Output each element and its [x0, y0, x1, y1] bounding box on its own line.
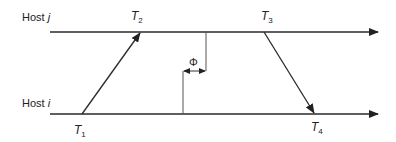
timestamp-t1: T1	[74, 123, 86, 139]
message-arrow-t3-t4	[264, 32, 314, 113]
message-arrow-t1-t2	[82, 33, 140, 114]
host-i-label: Host i	[22, 97, 51, 109]
timestamp-t4: T4	[311, 120, 323, 136]
offset-phi-label: Φ	[189, 56, 198, 68]
timestamp-t3: T3	[261, 9, 273, 25]
host-j-label: Host j	[22, 11, 51, 23]
timestamp-t2: T2	[131, 9, 143, 25]
clock-sync-diagram: Host j Host i T1 T2 T3 T4 Φ	[0, 0, 396, 142]
